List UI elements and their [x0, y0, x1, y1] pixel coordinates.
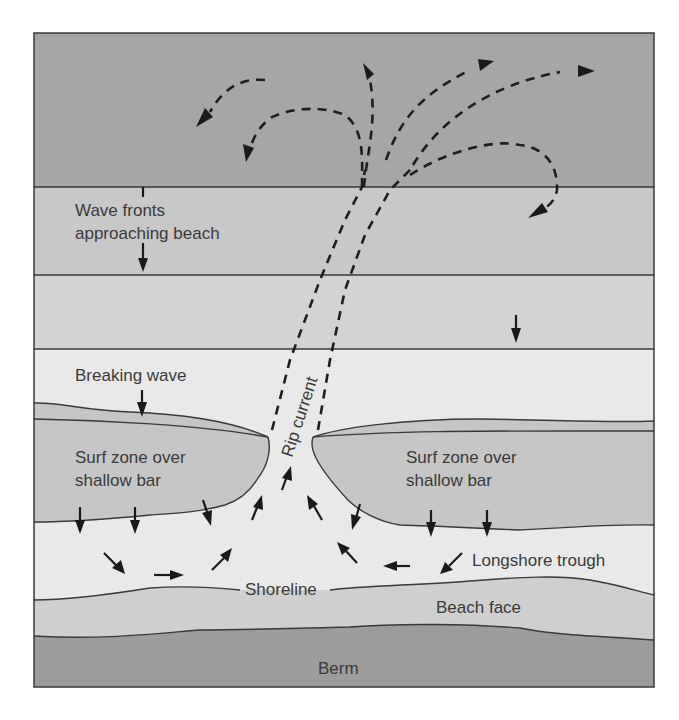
- label-surf-zone-left-line2: shallow bar: [75, 471, 161, 490]
- rip-current-diagram: Wave fronts approaching beach Breaking w…: [0, 0, 679, 720]
- deep-water-zone: [34, 33, 654, 187]
- label-surf-zone-right-line2: shallow bar: [406, 471, 492, 490]
- wave-band-2: [34, 275, 654, 349]
- label-longshore-trough: Longshore trough: [472, 551, 605, 570]
- label-wave-fronts-line2: approaching beach: [75, 224, 220, 243]
- label-shoreline: Shoreline: [245, 580, 317, 599]
- label-surf-zone-right-line1: Surf zone over: [406, 448, 517, 467]
- label-wave-fronts-line1: Wave fronts: [75, 201, 165, 220]
- label-breaking-wave: Breaking wave: [75, 366, 187, 385]
- label-berm: Berm: [318, 659, 359, 678]
- label-beach-face: Beach face: [436, 598, 521, 617]
- label-surf-zone-left-line1: Surf zone over: [75, 448, 186, 467]
